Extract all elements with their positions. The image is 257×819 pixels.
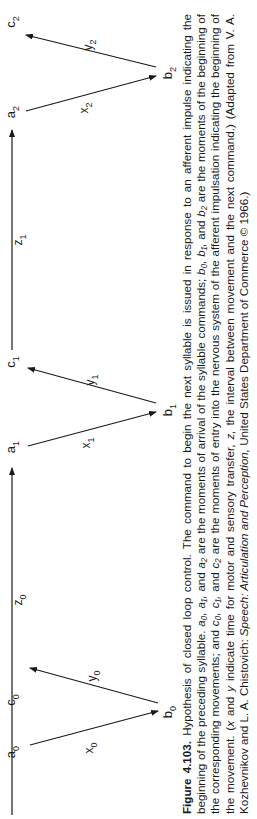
node-label-a2: a2 xyxy=(3,106,21,118)
node-label-a0: a0 xyxy=(3,746,21,758)
caption-text: are the moments of arrival of the syllab… xyxy=(194,275,207,558)
node-label-b2: b2 xyxy=(160,67,178,79)
figure-caption-container: Figure 4.103. Hypothesis of closed loop … xyxy=(180,14,251,814)
segment-label-y0: y0 xyxy=(85,670,102,681)
source-title: Speech: Articulation and Perception, xyxy=(237,449,250,636)
segment-label-y2: y2 xyxy=(81,39,98,50)
node-label-a1: a1 xyxy=(3,441,21,453)
caption-text: United States Department of Commerce © 1… xyxy=(237,192,250,449)
segment-label-x2: x2 xyxy=(77,102,94,113)
segment-label-z0: z0 xyxy=(11,594,28,605)
caption-var: c₂ xyxy=(208,558,221,568)
caption-text: and xyxy=(194,217,207,244)
segment-label-x0: x0 xyxy=(82,742,99,753)
figure-number: Figure 4.103. xyxy=(180,741,193,814)
caption-var: x xyxy=(223,721,236,727)
caption-text: and xyxy=(223,692,236,721)
caption-text: indicate time for motor and sensory tran… xyxy=(223,440,236,686)
caption-var: b₀, b₁, xyxy=(194,243,207,275)
caption-var: b₂ xyxy=(194,206,207,217)
node-label-c2: c2 xyxy=(3,16,21,28)
caption-var: z, xyxy=(223,431,236,440)
node-label-b1: b1 xyxy=(160,404,178,416)
segment-label-z1: z1 xyxy=(11,234,28,245)
caption-var: c₀, c₁, xyxy=(208,596,221,627)
figure-caption: Figure 4.103. Hypothesis of closed loop … xyxy=(180,14,251,814)
caption-var: a₂ xyxy=(194,558,207,569)
node-label-c1: c1 xyxy=(3,356,21,368)
arrow-x0 xyxy=(30,711,158,745)
arrows-layer xyxy=(12,35,158,815)
caption-text: and xyxy=(208,568,221,595)
node-label-b0: b0 xyxy=(160,706,178,718)
segment-label-y1: y1 xyxy=(83,374,100,385)
node-label-c0: c0 xyxy=(3,694,21,706)
caption-var: a₀, a₁, xyxy=(194,595,207,627)
caption-var: y xyxy=(223,686,236,692)
labels-layer: x0y0z0x1y1z1x2y2a0b0c0a1b1c1a2b2c2 xyxy=(3,16,178,758)
caption-text: and xyxy=(194,569,207,596)
segment-label-x1: x1 xyxy=(79,437,96,448)
